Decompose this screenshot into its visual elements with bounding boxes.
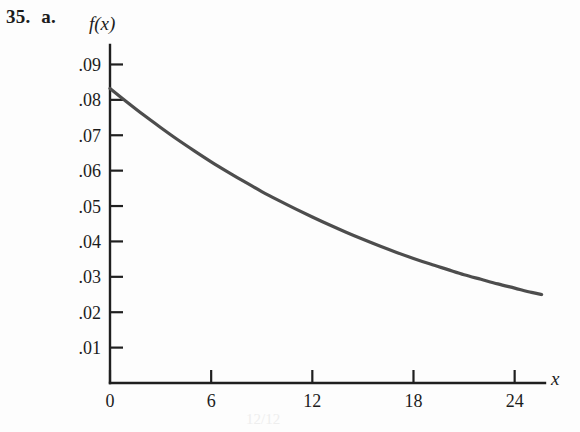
- x-tick-label: 0: [106, 391, 115, 411]
- x-tick-label: 18: [404, 391, 422, 411]
- x-tick-label: 6: [207, 391, 216, 411]
- y-tick-label: .04: [79, 232, 102, 252]
- figure-page: 35.a. f(x) x .01.02.03.04.05.06.07.08.09…: [0, 0, 580, 432]
- y-tick-label: .01: [79, 338, 102, 358]
- y-tick-label: .09: [79, 55, 102, 75]
- y-tick-label: .06: [79, 161, 102, 181]
- x-tick-label: 12: [303, 391, 321, 411]
- function-curve: [110, 89, 542, 295]
- y-tick-label: .07: [79, 126, 102, 146]
- y-tick-label: .05: [79, 197, 102, 217]
- y-tick-group: .01.02.03.04.05.06.07.08.09: [79, 55, 124, 358]
- y-tick-label: .08: [79, 90, 102, 110]
- y-tick-label: .02: [79, 303, 102, 323]
- x-tick-group: 06121824: [106, 370, 524, 411]
- y-tick-label: .03: [79, 267, 102, 287]
- page-bleed-through-text: 12/12: [246, 411, 280, 428]
- x-tick-label: 24: [506, 391, 524, 411]
- exponential-decay-chart: .01.02.03.04.05.06.07.08.09 06121824: [0, 0, 580, 432]
